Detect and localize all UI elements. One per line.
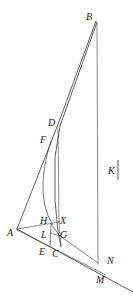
geometric-figure: B D F K H X A L G E C N M xyxy=(0,0,133,303)
segment-H-to-E xyxy=(50,224,51,247)
segment-G-to-N xyxy=(60,236,98,263)
point-label-N: N xyxy=(107,256,114,266)
point-label-B: B xyxy=(86,12,92,22)
point-label-H: H xyxy=(40,216,47,226)
point-label-G: G xyxy=(60,230,67,240)
point-label-X: X xyxy=(60,216,66,226)
point-label-C: C xyxy=(52,249,59,259)
point-label-F: F xyxy=(40,135,46,145)
segment-A-to-D xyxy=(17,127,57,229)
segment-B-to-C xyxy=(55,22,97,246)
baseline-A-through-M xyxy=(17,229,133,292)
segment-D-to-X xyxy=(58,129,59,222)
segment-D-to-B-left xyxy=(57,21,96,127)
segment-A-to-X xyxy=(17,222,59,229)
point-label-A: A xyxy=(7,228,13,238)
segment-B-to-N xyxy=(97,23,98,264)
point-label-D: D xyxy=(48,118,55,128)
point-label-L: L xyxy=(41,230,47,240)
point-label-K: K xyxy=(108,166,115,176)
point-label-M: M xyxy=(96,275,104,285)
point-label-E: E xyxy=(39,247,45,257)
segment-H-to-G xyxy=(51,224,60,236)
curve-F-to-H xyxy=(43,141,53,225)
